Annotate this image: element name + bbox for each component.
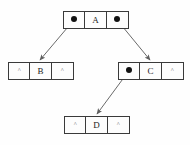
node-a-left-pointer[interactable] [64, 12, 85, 28]
node-a[interactable]: A [63, 11, 129, 29]
node-c[interactable]: C ^ [118, 62, 184, 80]
node-a-label: A [85, 12, 106, 28]
node-b-left-null: ^ [9, 63, 30, 79]
node-d[interactable]: ^ D ^ [64, 116, 130, 134]
node-d-label: D [86, 117, 107, 133]
node-b[interactable]: ^ B ^ [8, 62, 74, 80]
node-b-right-null: ^ [52, 63, 73, 79]
tree-diagram-canvas: A ^ B ^ C ^ ^ D ^ [0, 0, 190, 145]
node-c-right-null: ^ [162, 63, 183, 79]
node-b-label: B [30, 63, 51, 79]
node-c-label: C [140, 63, 161, 79]
node-a-right-pointer[interactable] [107, 12, 128, 28]
node-c-left-pointer[interactable] [119, 63, 140, 79]
node-d-left-null: ^ [65, 117, 86, 133]
node-d-right-null: ^ [108, 117, 129, 133]
